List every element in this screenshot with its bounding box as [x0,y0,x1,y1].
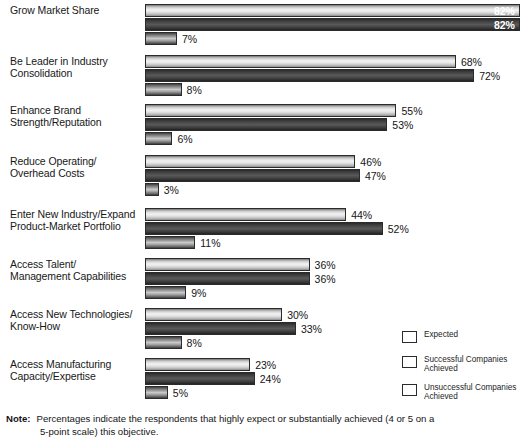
bar-value-label: 52% [388,222,409,236]
category-label: Access Talent/ Management Capabilities [10,258,142,283]
bar-value-label: 47% [365,169,386,183]
legend-label: Successful Companies Achieved [424,355,526,374]
bar-value-label: 8% [187,83,202,97]
bar-unsuccessful [145,83,182,96]
legend-label: Expected [424,330,526,339]
bar-successful [145,169,360,182]
bar-value-label: 68% [461,55,482,69]
bar-chart: Grow Market Share82%82%7%Be Leader in In… [0,0,526,437]
bar-value-label: 6% [177,132,192,146]
bar-successful [145,69,474,82]
legend-label: Unsuccessful Companies Achieved [424,383,526,402]
bar-value-label: 3% [164,183,179,197]
category-label: Grow Market Share [10,4,142,16]
legend-item-successful[interactable]: Successful Companies Achieved [402,355,526,374]
bar-successful [145,272,310,285]
legend-swatch-icon [402,331,417,343]
category-label: Access Manufacturing Capacity/Expertise [10,358,142,383]
note-line-2: 5-point scale) this objective. [40,426,526,437]
bar-unsuccessful [145,32,177,45]
bar-unsuccessful [145,386,168,399]
bar-value-label: 46% [360,155,381,169]
bar-value-label: 5% [173,386,188,400]
bar-expected [145,208,346,221]
bar-value-label: 8% [187,336,202,350]
chart-note: Note:Percentages indicate the respondent… [6,413,526,437]
bar-expected [145,155,355,168]
bar-value-label: 55% [401,104,422,118]
bar-value-label: 33% [301,322,322,336]
bar-successful [145,322,296,335]
bar-expected [145,55,456,68]
bar-successful [145,18,520,31]
category-label: Reduce Operating/ Overhead Costs [10,155,142,180]
bar-expected [145,104,396,117]
legend-swatch-icon [402,384,417,396]
bar-value-label: 7% [182,32,197,46]
bar-value-label: 82% [494,4,515,18]
bar-value-label: 82% [494,18,515,32]
bar-value-label: 11% [200,236,220,250]
bar-value-label: 36% [315,258,336,272]
category-label: Access New Technologies/ Know-How [10,308,142,333]
bar-unsuccessful [145,336,182,349]
bar-value-label: 72% [479,69,500,83]
bar-unsuccessful [145,286,186,299]
bar-unsuccessful [145,183,159,196]
note-line-1: Percentages indicate the respondents tha… [37,413,435,424]
category-label: Enter New Industry/Expand Product-Market… [10,208,142,233]
category-label: Be Leader in Industry Consolidation [10,55,142,80]
legend-swatch-icon [402,356,417,368]
legend-item-expected[interactable]: Expected [402,330,526,346]
category-label: Enhance Brand Strength/Reputation [10,104,142,129]
bar-value-label: 36% [315,272,336,286]
bar-value-label: 9% [191,286,206,300]
note-label: Note: [6,413,31,424]
bar-expected [145,358,250,371]
bar-expected [145,4,520,17]
bar-value-label: 44% [351,208,372,222]
bar-successful [145,222,383,235]
bar-value-label: 53% [392,118,413,132]
bar-unsuccessful [145,132,172,145]
bar-expected [145,308,282,321]
bar-value-label: 23% [255,358,276,372]
bar-successful [145,118,387,131]
bar-successful [145,372,255,385]
chart-legend: ExpectedSuccessful Companies AchievedUns… [402,330,526,411]
bar-value-label: 24% [260,372,281,386]
bar-value-label: 30% [287,308,308,322]
legend-item-unsuccessful[interactable]: Unsuccessful Companies Achieved [402,383,526,402]
bar-unsuccessful [145,236,195,249]
bar-expected [145,258,310,271]
